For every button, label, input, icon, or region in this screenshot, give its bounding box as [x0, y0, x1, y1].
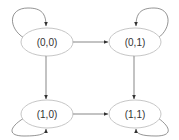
node-10: (1,0) — [21, 100, 73, 128]
node-01-label: (0,1) — [125, 37, 146, 48]
node-11: (1,1) — [109, 100, 161, 128]
node-11-label: (1,1) — [125, 109, 146, 120]
node-01: (0,1) — [109, 28, 161, 56]
node-10-label: (1,0) — [37, 109, 58, 120]
state-diagram: (0,0) (0,1) (1,0) (1,1) — [0, 0, 179, 140]
node-00-label: (0,0) — [37, 37, 58, 48]
node-00: (0,0) — [21, 28, 73, 56]
